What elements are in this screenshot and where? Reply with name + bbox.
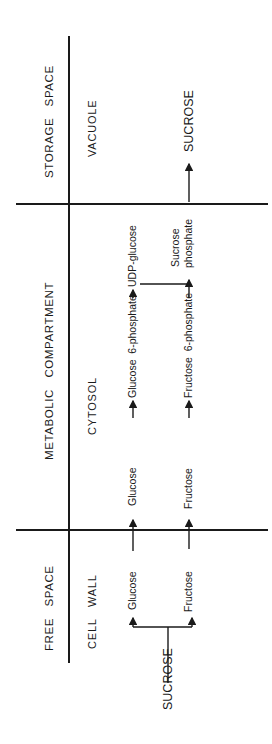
glucose-cytosol: Glucose: [127, 467, 138, 506]
sucrose-phosphate-line2: phosphate: [183, 219, 194, 268]
cell-wall-label: CELL WALL: [87, 574, 98, 649]
metabolic-compartment-label: METABOLIC COMPARTMENT: [44, 282, 56, 460]
fructose-6-phosphate: Fructose 6-phosphate: [183, 293, 194, 398]
fructose-cytosol: Fructose: [183, 468, 194, 509]
sucrose-input: SUCROSE: [162, 648, 175, 710]
cytosol-label: CYTOSOL: [87, 377, 98, 435]
glucose-6-phosphate: Glucose 6-phosphate: [127, 295, 138, 398]
fructose-cell-wall: Fructose: [183, 571, 194, 612]
glucose-cell-wall: Glucose: [127, 571, 138, 610]
sucrose-vacuole: SUCROSE: [183, 90, 196, 152]
vacuole-label: VACUOLE: [87, 100, 98, 157]
free-space-label: FREE SPACE: [44, 565, 56, 651]
storage-space-label: STORAGE SPACE: [44, 65, 56, 178]
udp-glucose: UDP-glucose: [127, 225, 138, 287]
sucrose-phosphate-line1: Sucrose: [170, 228, 181, 267]
